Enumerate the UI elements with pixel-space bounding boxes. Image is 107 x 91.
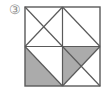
diagonal-top-right-anti (63, 7, 101, 47)
figure-container: ③ (0, 0, 107, 91)
square-dissection-diagram (0, 0, 107, 91)
